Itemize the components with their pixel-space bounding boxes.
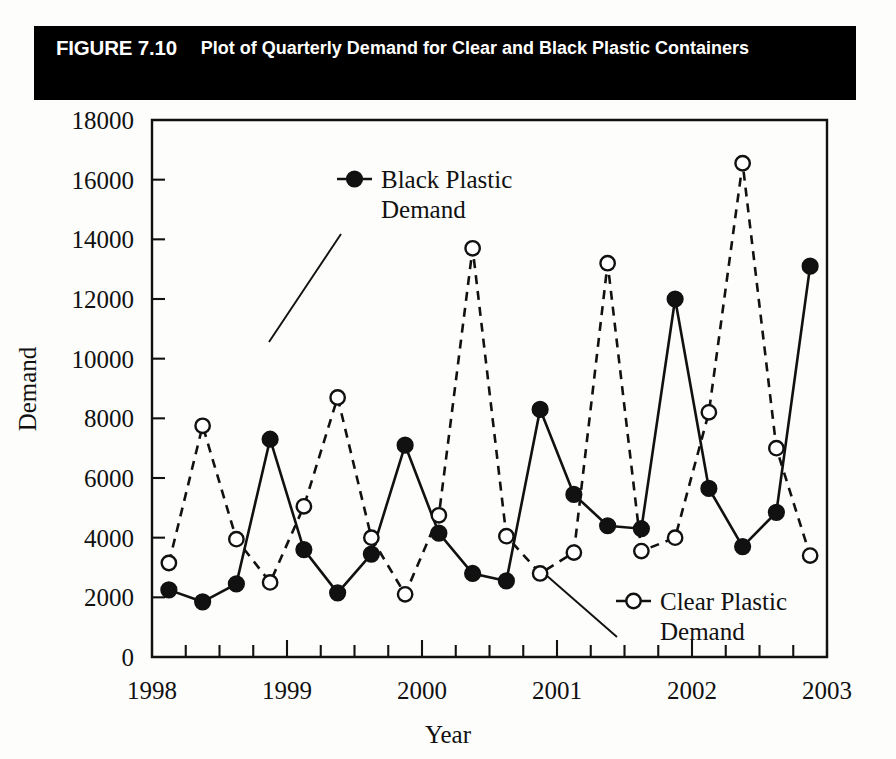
y-tick-label: 10000 xyxy=(72,346,135,373)
data-point-black xyxy=(769,505,785,521)
data-point-black xyxy=(330,585,346,601)
data-point-black xyxy=(397,437,413,453)
figure-container: FIGURE 7.10 Plot of Quarterly Demand for… xyxy=(0,0,896,759)
legend-clear-leader-line xyxy=(546,575,617,637)
data-point-clear xyxy=(702,405,716,419)
data-point-clear xyxy=(364,530,378,544)
y-tick-label: 16000 xyxy=(72,167,135,194)
data-point-clear xyxy=(229,532,243,546)
x-tick-label: 1999 xyxy=(262,677,312,704)
y-tick-label: 14000 xyxy=(72,226,135,253)
data-point-black xyxy=(701,481,717,497)
data-point-black xyxy=(296,542,312,558)
y-tick-label: 6000 xyxy=(84,465,134,492)
data-point-clear xyxy=(769,441,783,455)
chart-area: 0200040006000800010000120001400016000180… xyxy=(0,100,896,759)
data-point-black xyxy=(802,258,818,274)
clear-plastic-line xyxy=(169,163,810,594)
legend-black-leader-line xyxy=(269,234,341,342)
data-point-clear xyxy=(567,545,581,559)
x-axis-title: Year xyxy=(425,721,472,748)
data-point-clear xyxy=(263,575,277,589)
figure-title: Plot of Quarterly Demand for Clear and B… xyxy=(201,36,749,62)
x-tick-label: 2002 xyxy=(667,677,717,704)
legend-clear-label-line1: Clear Plastic xyxy=(660,588,787,615)
legend-open-circle-icon xyxy=(626,594,640,608)
demand-line-chart: 0200040006000800010000120001400016000180… xyxy=(0,100,896,759)
data-point-clear xyxy=(499,529,513,543)
data-point-clear xyxy=(330,390,344,404)
data-point-black xyxy=(532,402,548,418)
data-point-clear xyxy=(432,508,446,522)
data-point-black xyxy=(600,518,616,534)
data-point-black xyxy=(229,576,245,592)
y-axis-title: Demand xyxy=(14,346,41,431)
legend-black-label-line2: Demand xyxy=(381,196,466,223)
y-tick-label: 4000 xyxy=(84,525,134,552)
data-point-black xyxy=(431,525,447,541)
x-tick-label: 1998 xyxy=(127,677,177,704)
figure-title-banner: FIGURE 7.10 Plot of Quarterly Demand for… xyxy=(34,26,856,100)
data-point-black xyxy=(735,539,751,555)
data-point-clear xyxy=(465,241,479,255)
figure-number: FIGURE 7.10 xyxy=(56,36,201,60)
y-tick-label: 8000 xyxy=(84,405,134,432)
legend-clear-plastic: Clear Plastic Demand xyxy=(546,575,787,645)
legend-filled-circle-icon xyxy=(347,171,363,187)
data-point-black xyxy=(195,594,211,610)
data-point-clear xyxy=(735,156,749,170)
y-tick-label: 2000 xyxy=(84,584,134,611)
y-tick-label: 12000 xyxy=(72,286,135,313)
data-point-black xyxy=(667,291,683,307)
data-point-clear xyxy=(195,419,209,433)
y-tick-label: 0 xyxy=(122,644,135,671)
black-plastic-markers xyxy=(161,258,818,609)
data-point-clear xyxy=(162,556,176,570)
data-point-clear xyxy=(600,256,614,270)
data-point-black xyxy=(499,573,515,589)
data-point-black xyxy=(566,487,582,503)
data-point-clear xyxy=(668,530,682,544)
legend-black-label-line1: Black Plastic xyxy=(381,166,512,193)
data-point-clear xyxy=(398,587,412,601)
clear-plastic-markers xyxy=(162,156,818,601)
data-point-black xyxy=(161,582,177,598)
y-tick-label: 18000 xyxy=(72,107,135,134)
x-tick-label: 2001 xyxy=(532,677,582,704)
data-point-black xyxy=(262,431,278,447)
data-point-clear xyxy=(803,548,817,562)
data-point-black xyxy=(634,521,650,537)
legend-clear-label-line2: Demand xyxy=(660,618,745,645)
x-tick-label: 2003 xyxy=(802,677,852,704)
data-point-clear xyxy=(634,544,648,558)
x-tick-label: 2000 xyxy=(397,677,447,704)
data-point-black xyxy=(465,566,481,582)
data-point-black xyxy=(364,546,380,562)
x-axis: 199819992000200120022003 xyxy=(127,640,852,704)
data-point-clear xyxy=(297,499,311,513)
data-point-clear xyxy=(533,566,547,580)
